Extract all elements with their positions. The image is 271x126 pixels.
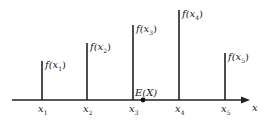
x-tick-label: x3 <box>129 103 139 116</box>
diagram-svg: x f(x1)x1f(x2)x2f(x3)x3f(x4)x4f(x5)x5 E(… <box>0 0 271 126</box>
x-tick-label: x1 <box>38 103 47 116</box>
expectation-point <box>141 98 146 103</box>
probability-label: f(x5) <box>227 51 249 64</box>
x-tick-label: x2 <box>83 103 93 116</box>
x-tick-label: x4 <box>175 103 185 116</box>
probability-label: f(x3) <box>135 23 157 36</box>
bar-5: f(x5)x5 <box>221 51 249 116</box>
bar-1: f(x1)x1 <box>38 59 66 116</box>
x-tick-label: x5 <box>221 103 231 116</box>
bar-2: f(x2)x2 <box>83 41 111 116</box>
expectation-label: E(X) <box>134 87 157 98</box>
probability-label: f(x2) <box>89 41 111 54</box>
probability-distribution-diagram: x f(x1)x1f(x2)x2f(x3)x3f(x4)x4f(x5)x5 E(… <box>0 0 271 126</box>
probability-label: f(x1) <box>44 59 66 72</box>
x-axis-arrow-icon <box>241 97 250 104</box>
x-axis-label: x <box>252 102 258 113</box>
probability-label: f(x4) <box>181 8 203 21</box>
